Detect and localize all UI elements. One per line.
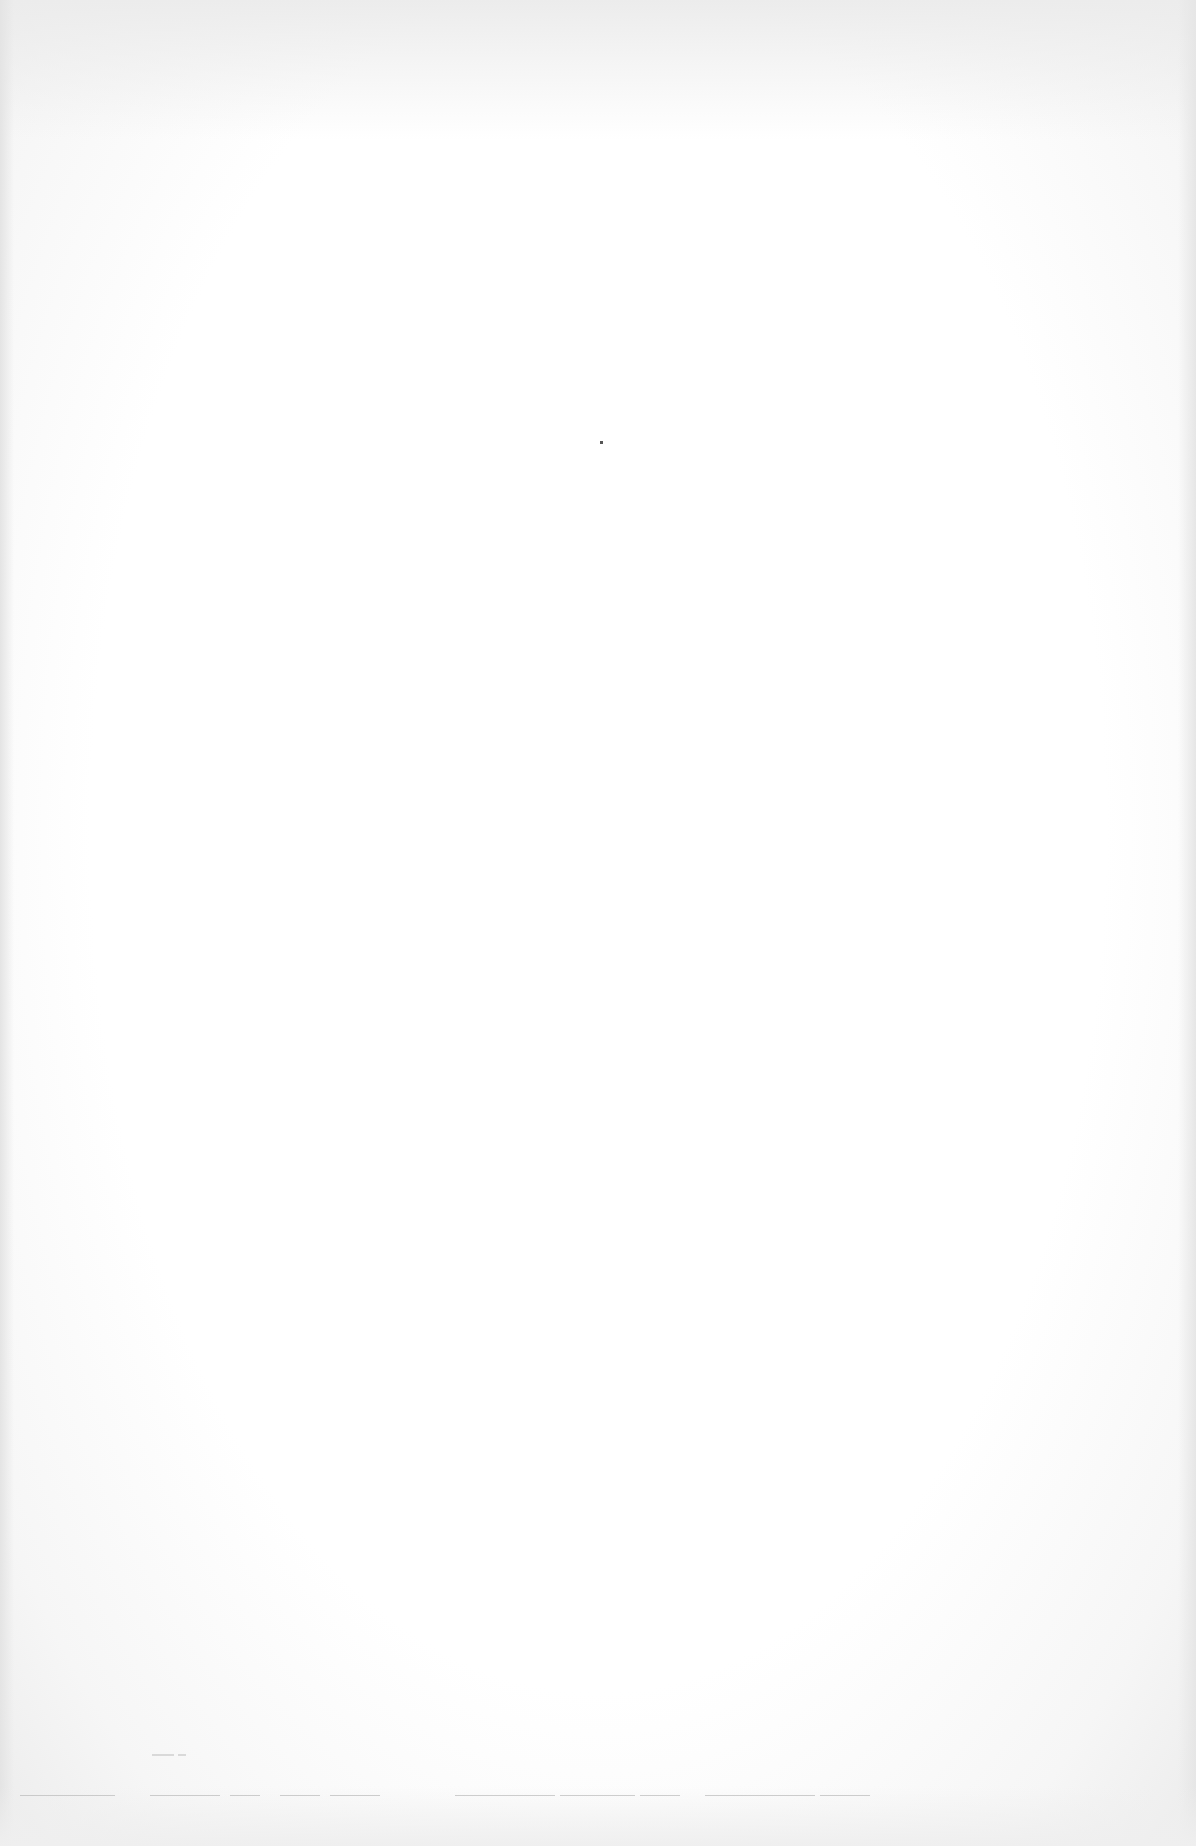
bleed-through-line: [150, 1795, 220, 1796]
bleed-through-line: [705, 1795, 815, 1796]
bleed-through-line: [20, 1795, 115, 1796]
bleed-through-line: [560, 1795, 635, 1796]
bleed-through-line: [455, 1795, 555, 1796]
bleed-through-line: [280, 1795, 320, 1796]
faint-mark: [178, 1754, 186, 1756]
bleed-through-line: [640, 1795, 680, 1796]
scanned-page: [0, 0, 1196, 1846]
bleed-through-line: [330, 1795, 380, 1796]
scan-shadow-left: [0, 0, 14, 1846]
dust-speck: [600, 441, 603, 444]
scan-shadow-right: [1178, 0, 1196, 1846]
faint-mark: [152, 1754, 174, 1756]
scan-shadow-top: [0, 0, 1196, 140]
bleed-through-line: [230, 1795, 260, 1796]
bleed-through-line: [820, 1795, 870, 1796]
